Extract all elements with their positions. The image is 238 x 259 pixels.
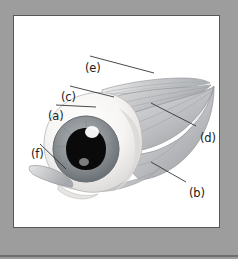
illustration-panel: (e) (c) (a) (d) (f) (b) bbox=[13, 15, 220, 228]
figure-frame: (e) (c) (a) (d) (f) (b) bbox=[0, 0, 238, 259]
frame-bottom-rule bbox=[0, 255, 238, 257]
corneal-highlight bbox=[85, 126, 99, 138]
screenshot-root: (e) (c) (a) (d) (f) (b) bbox=[0, 0, 238, 259]
label-f: (f) bbox=[31, 149, 43, 161]
label-a: (a) bbox=[48, 111, 63, 123]
label-d: (d) bbox=[200, 133, 216, 145]
label-b: (b) bbox=[189, 188, 205, 200]
label-e: (e) bbox=[85, 63, 100, 75]
label-c: (c) bbox=[61, 92, 76, 104]
iris bbox=[53, 116, 119, 182]
